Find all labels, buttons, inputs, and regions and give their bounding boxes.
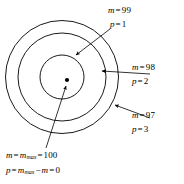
outer-circle [6, 21, 119, 134]
label-center-mass-value: 100 [44, 150, 58, 160]
label-shell1-parallax-value: 1 [122, 19, 127, 29]
label-shell1-mass: m=99 [108, 5, 131, 16]
label-shell1-mass-eq: = [115, 5, 122, 15]
label-shell3-mass-value: 97 [146, 110, 155, 120]
figure-canvas: m=99 p=1 m=98 p=2 m=97 p=3 m=mmax=100 p=… [0, 0, 184, 184]
label-shell3-parallax-var: p [132, 124, 137, 134]
label-center-mass-subscript: max [26, 154, 36, 160]
label-center-parallax-subscript: max [24, 169, 34, 175]
leader-line-shell1 [76, 29, 110, 55]
label-shell2-parallax-value: 2 [144, 76, 149, 86]
label-center-mass-var: m [6, 150, 13, 160]
label-center-mass-eq1: = [13, 150, 20, 160]
label-shell2-mass-eq: = [139, 62, 146, 72]
center-dot [65, 78, 69, 82]
label-center-parallax-minus: − [34, 165, 41, 175]
label-shell2-parallax-eq: = [137, 76, 144, 86]
label-center-parallax-var: p [6, 165, 11, 175]
label-shell3-mass: m=97 [132, 110, 155, 121]
label-shell1-parallax-eq: = [115, 19, 122, 29]
label-center-parallax: p=mmax−m=0 [6, 165, 60, 178]
label-shell1-parallax: p=1 [110, 19, 126, 30]
label-shell1-mass-value: 99 [122, 5, 131, 15]
label-center-mass-eq2: = [36, 150, 43, 160]
label-shell2-parallax-var: p [132, 76, 137, 86]
label-shell1-parallax-var: p [110, 19, 115, 29]
label-shell3-mass-var: m [132, 110, 139, 120]
middle-circle [18, 33, 106, 121]
label-shell2-mass-value: 98 [146, 62, 155, 72]
inner-circle [40, 55, 84, 99]
label-shell3-mass-eq: = [139, 110, 146, 120]
label-shell3-parallax: p=3 [132, 124, 148, 135]
label-shell3-parallax-value: 3 [144, 124, 149, 134]
label-center-parallax-eq1: = [11, 165, 18, 175]
label-shell2-parallax: p=2 [132, 76, 148, 87]
label-shell2-mass: m=98 [132, 62, 155, 73]
label-shell2-mass-var: m [132, 62, 139, 72]
label-shell3-parallax-eq: = [137, 124, 144, 134]
label-shell1-mass-var: m [108, 5, 115, 15]
label-center-parallax-value: 0 [55, 165, 60, 175]
label-center-mass: m=mmax=100 [6, 150, 57, 163]
